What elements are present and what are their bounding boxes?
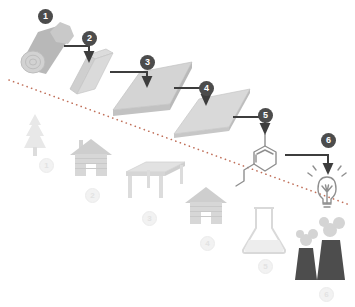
beam-icon: [70, 49, 113, 94]
step-badge-2[interactable]: 2: [82, 31, 97, 46]
factory-icon: [295, 217, 345, 280]
dotted-diagonal-divider: [9, 80, 350, 205]
log-icon: [21, 22, 74, 74]
tree-icon: [24, 114, 46, 156]
arrow-5-to-6: [285, 155, 328, 169]
diagram-canvas: 1 2 3 4 5 6 1 2 3 4 5 6: [0, 0, 355, 307]
use-badge-4[interactable]: 4: [200, 236, 215, 251]
house-chimney-icon: [70, 139, 112, 176]
lightbulb-icon: [308, 165, 346, 207]
step-badge-3[interactable]: 3: [140, 55, 155, 70]
step-badge-5[interactable]: 5: [258, 108, 273, 123]
step-badge-4[interactable]: 4: [199, 81, 214, 96]
use-badge-3[interactable]: 3: [142, 211, 157, 226]
diagram-graphics: [0, 0, 355, 307]
use-badge-1[interactable]: 1: [39, 158, 54, 173]
flask-liquid: [244, 240, 283, 252]
arrow-1-to-2: [64, 46, 89, 57]
use-badge-6[interactable]: 6: [319, 287, 334, 302]
use-badge-2[interactable]: 2: [85, 188, 100, 203]
table-icon: [126, 162, 185, 198]
use-badge-5[interactable]: 5: [258, 259, 273, 274]
molecule-icon: [236, 134, 276, 186]
house-icon: [185, 187, 227, 224]
step-badge-1[interactable]: 1: [38, 9, 53, 24]
step-badge-6[interactable]: 6: [321, 133, 336, 148]
panel-icon: [174, 89, 250, 138]
